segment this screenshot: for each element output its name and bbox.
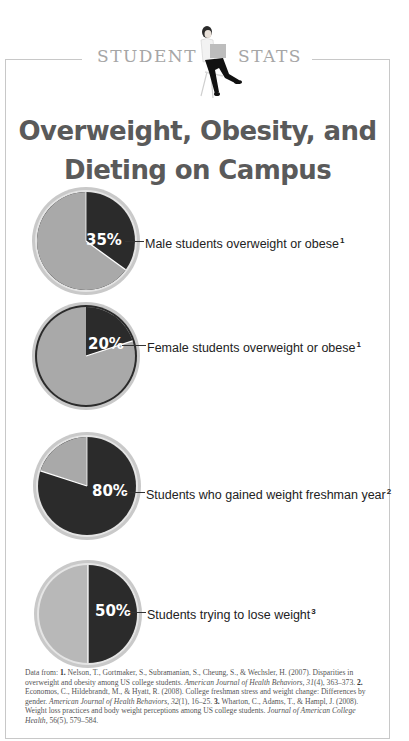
pie-1-percent: 35%: [86, 231, 122, 249]
frame-top-right-rule: [312, 59, 390, 60]
pie-3-caption: Students who gained weight freshman year…: [146, 484, 391, 503]
pie-2-connector: [122, 345, 146, 346]
pie-3-percent: 80%: [92, 482, 128, 500]
person-with-laptop-icon: [193, 22, 249, 102]
pie-1-caption: Male students overweight or obese1: [145, 233, 344, 252]
frame-bottom-rule: [5, 738, 390, 739]
pie-4-connector: [128, 612, 146, 613]
pie-2-percent: 20%: [88, 335, 124, 353]
pie-3-connector: [125, 492, 145, 493]
pie-1-connector: [125, 241, 144, 242]
ref-1-journal: American Journal of Health Behaviors, 31: [184, 678, 314, 687]
pie-4-caption: Students trying to lose weight3: [147, 604, 316, 623]
pie-2-footnote-ref: 1: [356, 340, 360, 349]
pie-chart-female-overweight: [31, 301, 141, 411]
page-title: Overweight, Obesity, and Dieting on Camp…: [0, 112, 395, 190]
pie-4-footnote-ref: 3: [311, 607, 315, 616]
title-line-1: Overweight, Obesity, and: [0, 112, 395, 151]
ref-2-number: 2.: [357, 678, 363, 687]
pie-2-caption: Female students overweight or obese1: [147, 337, 361, 356]
pie-3-footnote-ref: 2: [387, 487, 391, 496]
frame-top-left-rule: [5, 59, 82, 60]
pie-4-percent: 50%: [95, 602, 131, 620]
title-line-2: Dieting on Campus: [0, 151, 395, 190]
data-source-citation: Data from: 1. Nelson, T., Gortmaker, S.,…: [25, 668, 370, 726]
pie-1-footnote-ref: 1: [340, 236, 344, 245]
kicker-student: STUDENT: [97, 46, 197, 66]
ref-2-journal: American Journal of Health Behaviors, 32: [49, 697, 179, 706]
